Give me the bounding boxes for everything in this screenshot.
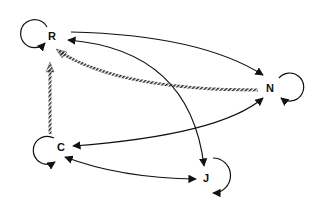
edge-R-J <box>68 40 204 166</box>
node-J: J <box>203 173 209 184</box>
edge-R-N <box>71 32 263 75</box>
self-loop-N <box>279 73 304 101</box>
self-loop-C <box>33 136 55 164</box>
node-C: C <box>57 142 65 153</box>
node-R: R <box>48 31 56 42</box>
edge-N-C <box>73 98 263 146</box>
node-N: N <box>266 83 274 94</box>
self-loop-J <box>213 158 231 193</box>
arrowhead-C-R-hatched <box>46 62 54 72</box>
self-loop-R <box>21 20 47 48</box>
edge-C-J <box>65 157 196 179</box>
graph-diagram: R N C J <box>0 0 324 210</box>
